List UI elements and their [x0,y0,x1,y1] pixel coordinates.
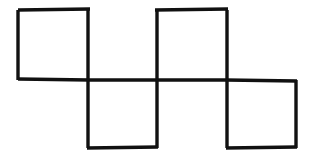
stick-top-1 [18,9,90,10]
stick-mid-1 [18,79,89,80]
stick-bot-1 [87,147,158,148]
stick-mid-4 [226,80,297,81]
stick-top-2 [155,9,228,10]
stick-bot-2 [226,147,297,148]
matchstick-figure-canvas [0,0,311,160]
matchstick-figure-svg [0,0,311,160]
